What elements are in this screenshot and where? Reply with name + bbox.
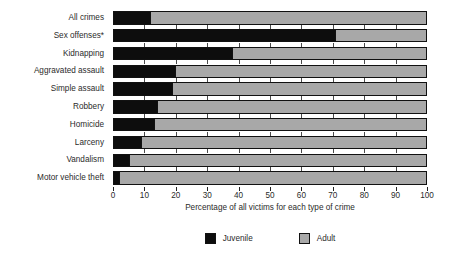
y-axis-category-label: Aggravated assault — [34, 62, 104, 80]
y-axis-category-label: Homicide — [70, 116, 104, 134]
legend-swatch-icon — [299, 233, 310, 244]
x-axis-tick-label: 80 — [360, 191, 369, 200]
bar-row — [113, 11, 427, 25]
x-axis-tick-label: 40 — [234, 191, 243, 200]
y-axis-category-label: Vandalism — [66, 151, 104, 169]
x-axis-title: Percentage of all victims for each type … — [113, 203, 427, 212]
legend-item: Juvenile — [205, 233, 253, 244]
bar-segment-juvenile — [114, 48, 233, 60]
x-axis-tick-labels: 0102030405060708090100 — [113, 191, 427, 203]
y-axis-category-label: Kidnapping — [63, 45, 104, 63]
x-axis-tick-label: 20 — [171, 191, 180, 200]
y-axis-category-label: Motor vehicle theft — [37, 169, 104, 187]
bar-segment-juvenile — [114, 172, 120, 184]
x-axis-tick-label: 50 — [265, 191, 274, 200]
bar-row — [113, 171, 427, 185]
plot-area — [113, 9, 427, 187]
bar-segment-juvenile — [114, 12, 151, 24]
x-axis-tick-label: 30 — [203, 191, 212, 200]
bar-row — [113, 136, 427, 150]
y-axis-category-label: Simple assault — [51, 80, 104, 98]
bar-segment-juvenile — [114, 30, 336, 42]
bar-segment-juvenile — [114, 119, 155, 131]
legend-item: Adult — [299, 233, 336, 244]
bar-row — [113, 82, 427, 96]
bar-row — [113, 118, 427, 132]
bar-row — [113, 65, 427, 79]
x-axis-tick-label: 70 — [328, 191, 337, 200]
x-axis-tick-label: 90 — [391, 191, 400, 200]
y-axis-category-label: All crimes — [69, 9, 104, 27]
stacked-bar-chart: All crimesSex offenses*KidnappingAggrava… — [0, 0, 449, 260]
bar-segment-juvenile — [114, 155, 130, 167]
x-axis-tick-label: 10 — [140, 191, 149, 200]
bar-row — [113, 47, 427, 61]
y-axis-category-label: Robbery — [73, 98, 104, 116]
y-axis-category-label: Larceny — [75, 134, 104, 152]
bar-row — [113, 29, 427, 43]
legend-swatch-icon — [205, 233, 216, 244]
bar-row — [113, 154, 427, 168]
legend-label: Adult — [317, 234, 336, 243]
y-axis-category-labels: All crimesSex offenses*KidnappingAggrava… — [0, 9, 108, 187]
bar-segment-juvenile — [114, 137, 142, 149]
bar-row — [113, 100, 427, 114]
y-axis-category-label: Sex offenses* — [54, 27, 104, 45]
bar-segment-juvenile — [114, 66, 176, 78]
legend-label: Juvenile — [223, 234, 253, 243]
x-axis-tick-label: 100 — [420, 191, 434, 200]
chart-legend: JuvenileAdult — [113, 230, 427, 246]
x-axis-tick-label: 0 — [111, 191, 116, 200]
x-axis-tick-label: 60 — [297, 191, 306, 200]
bar-segment-juvenile — [114, 83, 173, 95]
bar-segment-juvenile — [114, 101, 158, 113]
